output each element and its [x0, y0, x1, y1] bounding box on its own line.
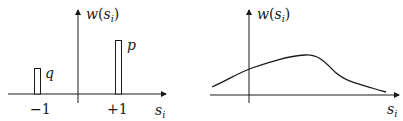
left-x-axis-label: si: [155, 102, 165, 120]
tick-minus-one: −1: [30, 101, 51, 117]
right-y-axis-label: w(si): [257, 6, 290, 24]
figure-canvas: q p −1 +1 w(si) si w(si) si: [0, 0, 403, 121]
density-curve: [212, 55, 386, 92]
left-y-axis-label: w(si): [86, 6, 119, 24]
bar-p: [116, 41, 122, 95]
right-x-axis-label: si: [387, 101, 397, 119]
bar-p-label: p: [127, 37, 136, 53]
tick-plus-one: +1: [107, 101, 128, 117]
right-panel-continuous-distribution: w(si) si: [210, 6, 399, 119]
bar-q: [35, 69, 41, 95]
bar-q-label: q: [45, 65, 54, 81]
left-panel-discrete-distribution: q p −1 +1 w(si) si: [8, 6, 166, 120]
